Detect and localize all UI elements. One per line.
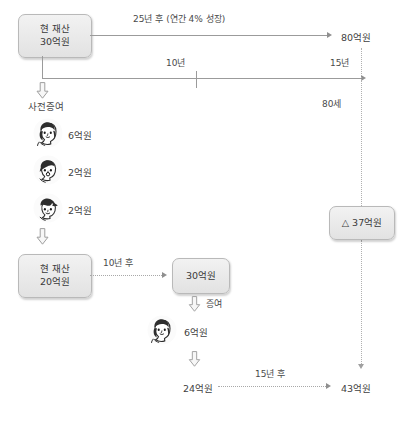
bottom-final-line [218,386,326,387]
box-current-assets-top-line2: 30억원 [40,36,70,49]
woman-avatar-icon [33,118,63,148]
after-gift-down-arrow [36,228,49,245]
bottom-final-result: 43억원 [341,381,371,395]
bottom-final-arrowhead [326,383,331,389]
bottom-growth-line [90,275,162,276]
box-current-assets-after-gift: 현 재산 20억원 [18,254,92,298]
box-current-assets-after-gift-line1: 현 재산 [40,263,70,276]
box-difference: △ 37억원 [329,206,395,240]
child-avatar-icon [33,193,63,223]
diagram-canvas: 현 재산 30억원 25년 후 (연간 4% 성장) 80억원 10년 15년 … [0,0,402,423]
gift-branch-down-arrow [36,82,49,99]
box-difference-label: △ 37억원 [342,217,382,230]
bottom-remaining-amount: 24억원 [183,381,213,395]
box-current-assets-top-line1: 현 재산 [40,23,70,36]
gift-recipient-1-amount: 6억원 [68,128,92,142]
box-grown-assets-line1: 30억원 [186,270,216,283]
bottom-final-caption: 15년 후 [255,369,285,380]
timeline-tick-10y [196,71,197,88]
timeline-label-15y: 15년 [330,58,349,69]
timeline-line [42,78,361,79]
top-growth-result: 80억원 [341,30,371,44]
box-grown-assets: 30억원 [172,258,230,294]
gift-recipient-2-amount: 2억원 [68,165,92,179]
bottom-growth-arrowhead [162,272,167,278]
right-spine-arrowhead [358,364,364,369]
top-box-dropline [42,56,43,78]
gift-down-arrow [188,296,201,312]
bottom-growth-caption: 10년 후 [103,258,133,269]
gift-recipient-3-amount: 2억원 [68,203,92,217]
box-current-assets-top: 현 재산 30억원 [18,14,92,58]
timeline-label-10y: 10년 [166,58,185,69]
man-avatar-icon [33,155,63,185]
woman-avatar-icon-bottom [147,315,177,345]
bottom-gift-recipient-amount: 6억원 [184,325,208,339]
right-spine-lower [361,240,362,366]
box-current-assets-after-gift-line2: 20억원 [40,276,70,289]
timeline-age-marker: 80세 [322,99,341,110]
top-growth-caption: 25년 후 (연간 4% 성장) [133,14,225,25]
right-spine-upper [361,48,362,206]
gift-section-heading: 사전증여 [28,101,64,113]
remaining-down-arrow [188,351,201,367]
gift-caption: 증여 [206,299,222,310]
top-growth-arrowhead [327,32,332,38]
top-growth-line [90,35,327,36]
